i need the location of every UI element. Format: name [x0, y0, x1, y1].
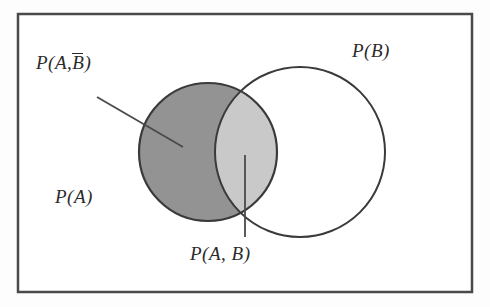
- label-p-a-not-b-overline-b: B: [72, 52, 84, 74]
- label-p-a-and-b: P(A, B): [190, 243, 250, 265]
- label-p-b: P(B): [352, 40, 390, 62]
- label-p-a-not-b-suffix: ): [84, 52, 91, 73]
- venn-diagram-figure: P(A,B) P(B) P(A) P(A, B): [0, 0, 490, 307]
- label-p-a-not-b-prefix: P(A,: [36, 52, 72, 73]
- label-p-a: P(A): [55, 186, 93, 208]
- label-p-a-not-b: P(A,B): [36, 52, 91, 74]
